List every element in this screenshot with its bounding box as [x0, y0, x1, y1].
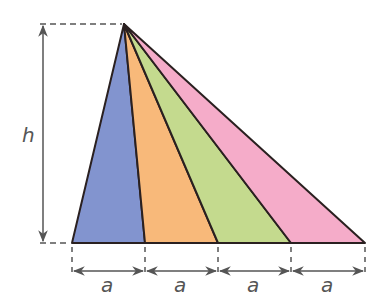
- triangle-diagram: h a a a a: [0, 0, 382, 303]
- height-label: h: [22, 123, 35, 147]
- base-label-3: a: [247, 273, 259, 297]
- base-label-2: a: [174, 273, 186, 297]
- base-label-4: a: [321, 273, 333, 297]
- base-label-1: a: [101, 273, 113, 297]
